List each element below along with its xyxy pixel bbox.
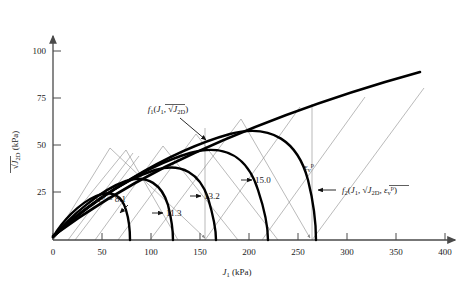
x-tick-label: 350 (389, 247, 403, 257)
y-title-unit: (kPa) (10, 131, 20, 151)
y-tick-label: 100 (33, 46, 47, 56)
f1-close: ) (185, 104, 188, 114)
chart-svg: 100 75 50 25 0 50 100 150 200 250 300 35… (0, 0, 473, 284)
cap5-sup: p (311, 161, 314, 168)
f2-close: ) (394, 185, 397, 195)
y-tick-label: 25 (37, 187, 47, 197)
x-tick-label: 200 (242, 247, 256, 257)
y-axis-title-text: √J2D (kPa) (10, 131, 21, 170)
cap-label-11-3: 11.3 (166, 208, 182, 218)
x-tick-label: 150 (193, 247, 207, 257)
y-tick-label: 75 (37, 93, 47, 103)
x-title-unit: (kPa) (232, 267, 252, 277)
cap-label-15-0: 15.0 (255, 175, 271, 185)
chart-background (0, 0, 473, 284)
x-tick-label: 250 (291, 247, 305, 257)
y-tick-label: 50 (37, 140, 47, 150)
x-tick-label: 300 (340, 247, 354, 257)
chart-figure: 100 75 50 25 0 50 100 150 200 250 300 35… (0, 0, 473, 284)
cap1-value: = 8.1 (105, 194, 126, 204)
y-axis-title: √J2D (kPa) (10, 131, 21, 173)
x-tick-label: 400 (438, 247, 452, 257)
x-tick-label: 100 (144, 247, 158, 257)
x-tick-label: 50 (98, 247, 108, 257)
x-tick-label: 0 (51, 247, 56, 257)
cap-label-13-2: 13.2 (204, 191, 220, 201)
